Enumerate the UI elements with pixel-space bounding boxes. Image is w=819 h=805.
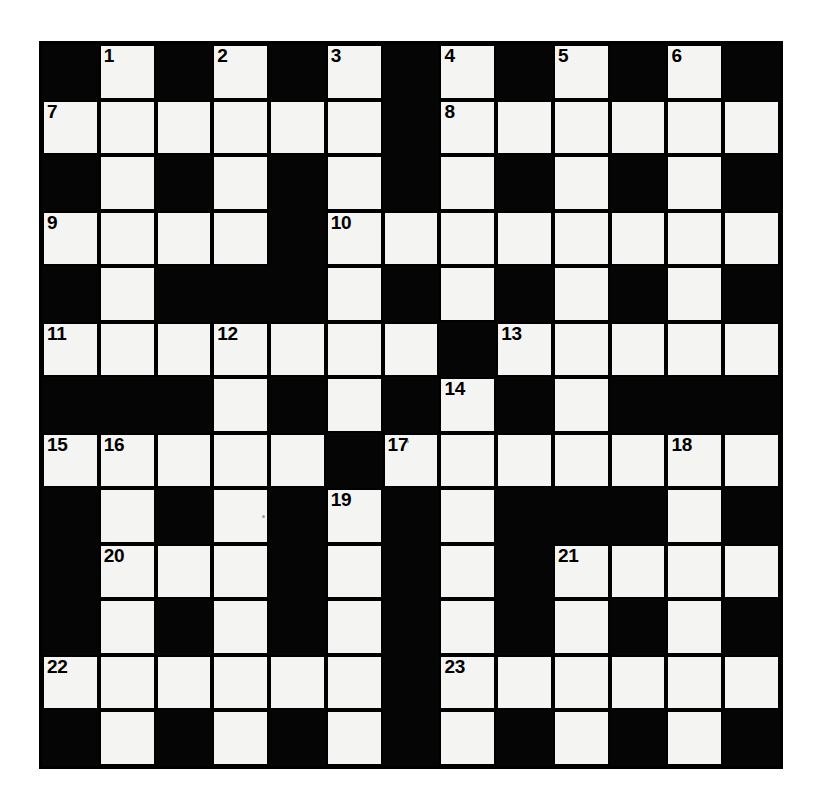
crossword-cell[interactable]	[156, 544, 213, 600]
crossword-cell[interactable]	[99, 100, 156, 156]
crossword-cell[interactable]	[156, 655, 213, 711]
crossword-cell[interactable]: 15	[42, 433, 99, 489]
crossword-cell[interactable]	[610, 544, 667, 600]
crossword-cell[interactable]	[553, 599, 610, 655]
crossword-cell[interactable]	[326, 655, 383, 711]
crossword-cell[interactable]	[553, 710, 610, 766]
crossword-cell[interactable]: 21	[553, 544, 610, 600]
crossword-cell[interactable]	[496, 100, 553, 156]
crossword-cell[interactable]	[610, 322, 667, 378]
crossword-cell[interactable]: 4	[439, 44, 496, 100]
crossword-cell[interactable]	[326, 100, 383, 156]
crossword-cell[interactable]	[156, 322, 213, 378]
crossword-cell[interactable]	[439, 599, 496, 655]
crossword-cell[interactable]	[496, 433, 553, 489]
crossword-cell[interactable]	[212, 433, 269, 489]
crossword-cell[interactable]	[99, 322, 156, 378]
crossword-cell[interactable]	[666, 599, 723, 655]
crossword-cell[interactable]	[553, 377, 610, 433]
crossword-cell[interactable]	[212, 599, 269, 655]
crossword-cell[interactable]: 1	[99, 44, 156, 100]
crossword-cell[interactable]	[326, 544, 383, 600]
crossword-cell[interactable]	[723, 544, 780, 600]
crossword-cell[interactable]	[212, 377, 269, 433]
crossword-cell[interactable]	[439, 266, 496, 322]
crossword-cell[interactable]	[666, 266, 723, 322]
crossword-cell[interactable]	[326, 710, 383, 766]
crossword-cell[interactable]: 18	[666, 433, 723, 489]
crossword-cell[interactable]: 10	[326, 211, 383, 267]
crossword-cell[interactable]	[666, 100, 723, 156]
crossword-cell[interactable]	[666, 155, 723, 211]
crossword-cell[interactable]	[723, 433, 780, 489]
crossword-cell[interactable]	[326, 599, 383, 655]
crossword-cell[interactable]	[99, 155, 156, 211]
crossword-cell[interactable]: 14	[439, 377, 496, 433]
crossword-cell[interactable]: 8	[439, 100, 496, 156]
crossword-cell[interactable]	[439, 544, 496, 600]
crossword-cell[interactable]	[439, 710, 496, 766]
crossword-cell[interactable]	[723, 322, 780, 378]
crossword-cell[interactable]	[326, 322, 383, 378]
crossword-cell[interactable]	[156, 100, 213, 156]
crossword-cell[interactable]: 23	[439, 655, 496, 711]
crossword-cell[interactable]: 16	[99, 433, 156, 489]
crossword-cell[interactable]: 3	[326, 44, 383, 100]
crossword-cell[interactable]	[610, 433, 667, 489]
crossword-cell[interactable]	[723, 100, 780, 156]
crossword-cell[interactable]	[156, 433, 213, 489]
crossword-cell[interactable]	[553, 155, 610, 211]
crossword-cell[interactable]	[666, 544, 723, 600]
crossword-cell[interactable]	[610, 211, 667, 267]
crossword-cell[interactable]	[496, 211, 553, 267]
crossword-cell[interactable]: 19	[326, 488, 383, 544]
crossword-cell[interactable]: 7	[42, 100, 99, 156]
crossword-cell[interactable]	[212, 211, 269, 267]
crossword-cell[interactable]	[610, 655, 667, 711]
crossword-cell[interactable]	[496, 655, 553, 711]
crossword-cell[interactable]	[269, 655, 326, 711]
crossword-cell[interactable]	[326, 266, 383, 322]
crossword-cell[interactable]	[553, 211, 610, 267]
crossword-cell[interactable]	[212, 100, 269, 156]
crossword-cell[interactable]	[269, 100, 326, 156]
crossword-cell[interactable]	[99, 655, 156, 711]
crossword-cell[interactable]	[99, 710, 156, 766]
crossword-cell[interactable]	[156, 211, 213, 267]
crossword-cell[interactable]	[269, 433, 326, 489]
crossword-cell[interactable]: 20	[99, 544, 156, 600]
crossword-cell[interactable]	[212, 544, 269, 600]
crossword-cell[interactable]	[666, 488, 723, 544]
crossword-cell[interactable]	[212, 155, 269, 211]
crossword-cell[interactable]	[553, 655, 610, 711]
crossword-cell[interactable]: 13	[496, 322, 553, 378]
crossword-cell[interactable]	[666, 322, 723, 378]
crossword-cell[interactable]: 22	[42, 655, 99, 711]
crossword-cell[interactable]: 6	[666, 44, 723, 100]
crossword-cell[interactable]	[553, 266, 610, 322]
crossword-cell[interactable]	[439, 433, 496, 489]
crossword-cell[interactable]	[553, 433, 610, 489]
crossword-cell[interactable]	[383, 322, 440, 378]
crossword-cell[interactable]	[99, 211, 156, 267]
crossword-cell[interactable]	[326, 377, 383, 433]
crossword-cell[interactable]	[723, 655, 780, 711]
crossword-cell[interactable]: 5	[553, 44, 610, 100]
crossword-cell[interactable]	[439, 155, 496, 211]
crossword-cell[interactable]	[553, 100, 610, 156]
crossword-cell[interactable]	[610, 100, 667, 156]
crossword-cell[interactable]	[99, 599, 156, 655]
crossword-cell[interactable]	[666, 655, 723, 711]
crossword-cell[interactable]	[723, 211, 780, 267]
crossword-cell[interactable]: 9	[42, 211, 99, 267]
crossword-cell[interactable]	[383, 211, 440, 267]
crossword-cell[interactable]: 17	[383, 433, 440, 489]
crossword-cell[interactable]	[212, 488, 269, 544]
crossword-cell[interactable]	[99, 488, 156, 544]
crossword-cell[interactable]: 2	[212, 44, 269, 100]
crossword-cell[interactable]: 12	[212, 322, 269, 378]
crossword-cell[interactable]: 11	[42, 322, 99, 378]
crossword-cell[interactable]	[553, 322, 610, 378]
crossword-grid[interactable]: 1234567891011121314151617181920212223	[39, 41, 783, 769]
crossword-cell[interactable]	[326, 155, 383, 211]
